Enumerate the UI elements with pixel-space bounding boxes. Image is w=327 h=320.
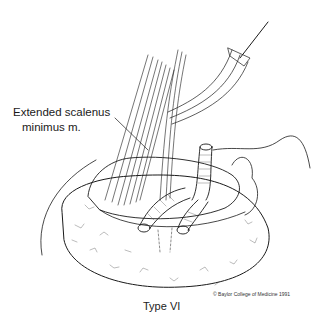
anatomical-illustration: Extended scalenus minimus m. © Baylor Co…: [0, 0, 327, 320]
copyright-notice: © Baylor College of Medicine 1991: [213, 291, 290, 297]
annotation-label-line1: Extended scalenus: [13, 106, 110, 119]
illustration-drawing: [0, 0, 327, 320]
figure-caption: Type VI: [143, 300, 180, 312]
annotation-label-line2: minimus m.: [22, 121, 81, 134]
